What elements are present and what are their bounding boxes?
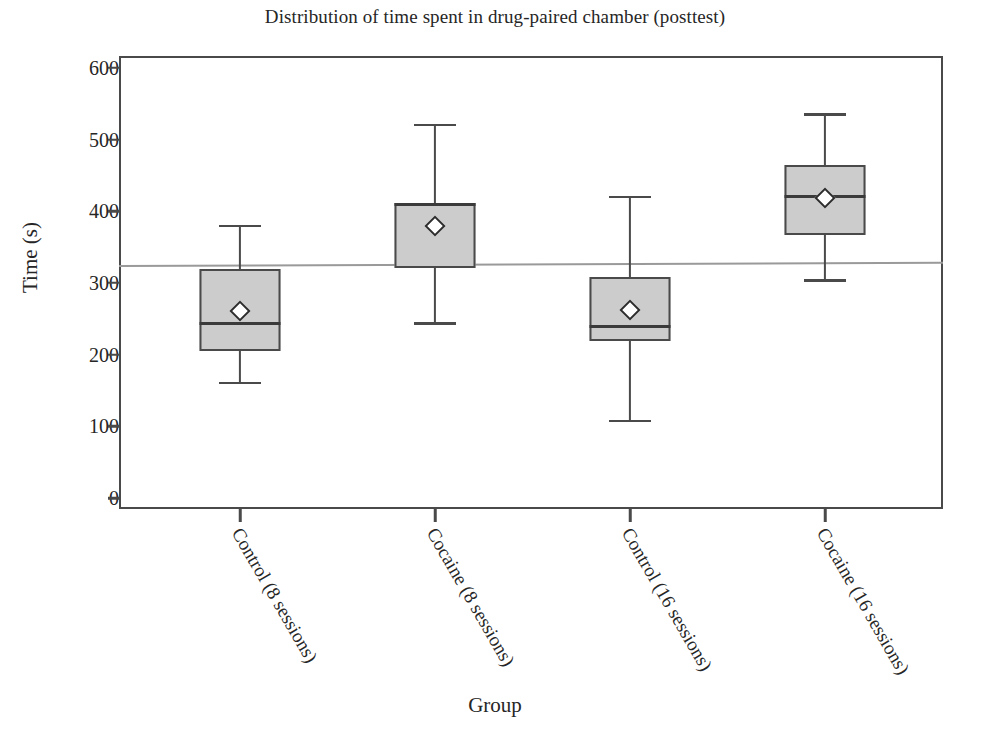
x-tick-label: Cocaine (8 sessions): [422, 524, 519, 670]
whisker-cap-lower: [804, 279, 846, 282]
x-tick-mark: [629, 509, 632, 522]
plot-area: [119, 56, 943, 509]
whisker-lower: [824, 235, 826, 279]
x-axis-title: Group: [0, 693, 990, 718]
x-tick-label: Control (8 sessions): [227, 524, 322, 667]
x-tick-mark: [239, 509, 242, 522]
x-tick-mark: [434, 509, 437, 522]
box-plot-group[interactable]: [119, 56, 943, 509]
whisker-upper: [824, 113, 826, 165]
whisker-cap-upper: [804, 113, 846, 116]
x-tick-mark: [824, 509, 827, 522]
y-axis-ticks: 0100200300400500600: [39, 0, 119, 733]
x-tick-label: Control (16 sessions): [617, 524, 717, 675]
box-plot-figure: Distribution of time spent in drug-paire…: [0, 0, 990, 733]
chart-title: Distribution of time spent in drug-paire…: [0, 6, 990, 28]
x-tick-label: Cocaine (16 sessions): [812, 524, 914, 679]
